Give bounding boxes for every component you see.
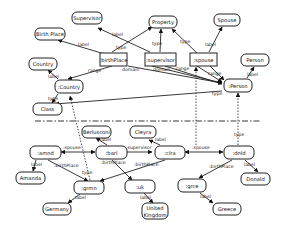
svg-text:Donald: Donald — [246, 176, 264, 182]
node-birthplace-property: :birthPlace — [100, 53, 128, 66]
svg-text:United: United — [146, 205, 163, 211]
svg-text:domain: domain — [153, 67, 170, 72]
svg-text::birthPlace: :birthPlace — [209, 164, 234, 169]
svg-text:label: label — [31, 162, 42, 167]
svg-text:Kingdom: Kingdom — [144, 212, 167, 219]
node-supervisor-property: :supervisor — [145, 53, 176, 66]
svg-text::birthPlace: :birthPlace — [134, 162, 159, 167]
svg-text:Country: Country — [33, 61, 54, 68]
svg-text::birthPlace: :birthPlace — [101, 160, 126, 165]
svg-text:Amanda: Amanda — [20, 175, 42, 181]
svg-text:Cleyra: Cleyra — [135, 129, 152, 136]
svg-text::spouse: :spouse — [193, 57, 213, 64]
svg-text::birthPlace: :birthPlace — [54, 163, 79, 168]
node-clra: :clra — [155, 146, 185, 159]
node-germany: Germany — [43, 203, 71, 215]
svg-text:label: label — [140, 195, 151, 200]
svg-text:Spouse: Spouse — [218, 17, 237, 24]
node-amanda: Amanda — [16, 172, 45, 184]
svg-text::Country: :Country — [58, 84, 80, 91]
node-spouse-class: Spouse — [214, 14, 240, 26]
svg-text::birthPlace: :birthPlace — [100, 57, 128, 63]
svg-text::uk: :uk — [136, 184, 144, 190]
svg-text:type: type — [82, 170, 92, 175]
svg-text:range: range — [176, 66, 190, 71]
svg-text:label: label — [75, 195, 86, 200]
svg-text::barl: :barl — [106, 150, 118, 156]
node-country-label: Country — [29, 58, 57, 70]
svg-text::amnd: :amnd — [37, 150, 54, 156]
node-berlusconi: Berlusconi — [82, 126, 111, 138]
svg-text:Berlusconi: Berlusconi — [83, 129, 110, 135]
svg-text:Class: Class — [41, 106, 55, 112]
node-cleyra: Cleyra — [130, 126, 156, 138]
node-spouse-property: :spouse — [190, 53, 217, 66]
node-person-label: Person — [241, 54, 269, 66]
node-dnld: :dnld — [224, 146, 254, 159]
svg-text:Greece: Greece — [218, 206, 236, 212]
node-barl: :barl — [96, 146, 127, 159]
node-person: :Person — [224, 79, 252, 92]
svg-text:label: label — [48, 74, 59, 79]
svg-text:type: type — [48, 96, 58, 101]
svg-text:type: type — [234, 132, 244, 137]
svg-text::dnld: :dnld — [232, 150, 245, 156]
svg-text::spouse: :spouse — [63, 145, 81, 150]
svg-text:label: label — [200, 194, 211, 199]
svg-text:range: range — [88, 68, 102, 73]
svg-text:Supervisor: Supervisor — [73, 15, 102, 22]
svg-text::grmn: :grmn — [81, 185, 96, 192]
svg-text:label: label — [155, 137, 166, 142]
svg-text:type: type — [116, 45, 126, 50]
svg-text::spouse: :spouse — [192, 145, 210, 150]
svg-text:Germany: Germany — [45, 206, 69, 213]
node-grce: :grce — [178, 179, 206, 192]
svg-text:type: type — [152, 41, 162, 46]
svg-text:label: label — [244, 162, 255, 167]
svg-text:type: type — [212, 91, 222, 96]
svg-text:type: type — [180, 39, 190, 44]
svg-text:Birth Place: Birth Place — [36, 31, 64, 37]
node-country: :Country — [55, 80, 83, 93]
node-birth-place-class: Birth Place — [35, 28, 65, 40]
node-donald: Donald — [241, 173, 270, 185]
rdf-graph-diagram: label label type type type label range d… — [0, 0, 284, 230]
svg-text::supervisor: :supervisor — [126, 145, 152, 150]
svg-text:label: label — [78, 42, 89, 47]
node-united-kingdom: United Kingdom — [142, 203, 168, 219]
svg-text:Property: Property — [152, 19, 174, 26]
svg-text::supervisor: :supervisor — [146, 57, 176, 64]
svg-text::Person: :Person — [228, 83, 247, 89]
svg-text:range: range — [208, 71, 222, 76]
node-greece: Greece — [213, 203, 241, 215]
node-amnd: :amnd — [30, 146, 61, 159]
svg-text:domain: domain — [122, 67, 139, 72]
node-grmn: :grmn — [74, 181, 104, 194]
svg-text:Person: Person — [246, 57, 263, 63]
svg-text::clra: :clra — [164, 150, 175, 156]
node-property: Property — [149, 16, 177, 28]
svg-text:label: label — [205, 42, 216, 47]
node-uk: :uk — [125, 180, 155, 193]
node-class: Class — [33, 103, 62, 115]
svg-text::grce: :grce — [185, 183, 198, 190]
node-supervisor-class: Supervisor — [72, 12, 102, 24]
svg-text:label: label — [247, 72, 258, 77]
svg-text:label: label — [112, 32, 123, 37]
